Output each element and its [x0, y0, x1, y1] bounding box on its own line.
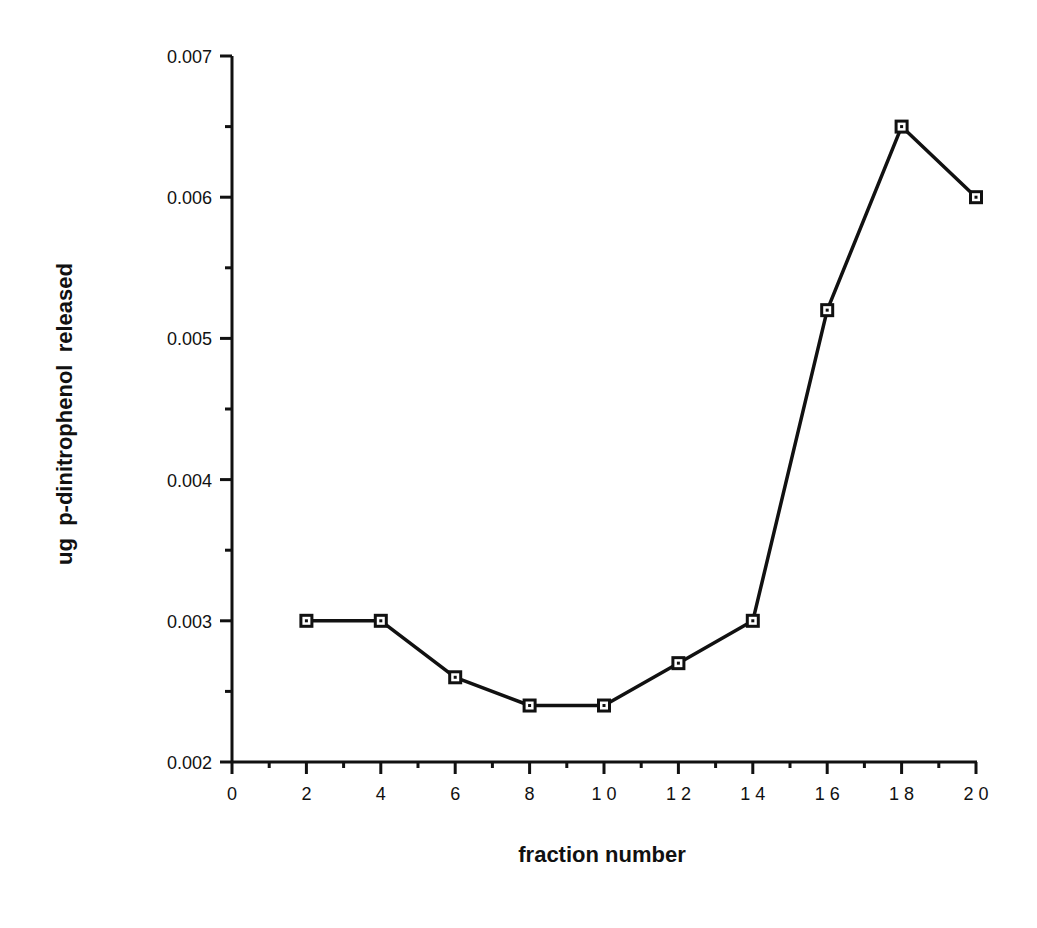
data-point-marker — [820, 303, 834, 317]
x-tick-label: 2 0 — [963, 784, 988, 804]
x-tick-label: 2 — [301, 784, 311, 804]
x-tick-label: 1 2 — [666, 784, 691, 804]
x-tick-label: 1 8 — [889, 784, 914, 804]
data-point-marker — [746, 614, 760, 628]
x-tick-label: 0 — [227, 784, 237, 804]
y-ticks: 0.0020.0030.0040.0050.0060.007 — [167, 47, 232, 773]
y-axis-title: ug p-dinitrophenol released — [52, 263, 77, 565]
x-tick-label: 4 — [376, 784, 386, 804]
data-point-marker — [299, 614, 313, 628]
data-markers — [299, 120, 983, 713]
x-tick-label: 1 0 — [591, 784, 616, 804]
y-tick-label: 0.002 — [167, 753, 212, 773]
x-ticks: 024681 01 21 41 61 82 0 — [227, 762, 989, 804]
y-tick-label: 0.004 — [167, 471, 212, 491]
x-tick-label: 1 6 — [815, 784, 840, 804]
data-point-marker — [374, 614, 388, 628]
data-point-marker — [969, 190, 983, 204]
axes: 0.0020.0030.0040.0050.0060.007 024681 01… — [167, 47, 989, 804]
y-tick-label: 0.007 — [167, 47, 212, 67]
data-series — [299, 120, 983, 713]
x-axis-title: fraction number — [518, 842, 686, 867]
y-tick-label: 0.003 — [167, 612, 212, 632]
y-tick-label: 0.005 — [167, 329, 212, 349]
line-chart: 0.0020.0030.0040.0050.0060.007 024681 01… — [0, 0, 1037, 928]
data-point-marker — [597, 699, 611, 713]
data-point-marker — [448, 670, 462, 684]
x-tick-label: 8 — [525, 784, 535, 804]
data-point-marker — [895, 120, 909, 134]
x-tick-label: 6 — [450, 784, 460, 804]
y-tick-label: 0.006 — [167, 188, 212, 208]
data-point-marker — [671, 656, 685, 670]
series-line — [306, 127, 976, 706]
x-tick-label: 1 4 — [740, 784, 765, 804]
data-point-marker — [523, 699, 537, 713]
